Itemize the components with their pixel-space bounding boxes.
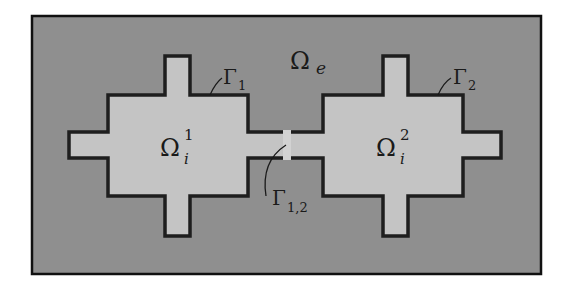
svg-text:i: i <box>400 150 405 168</box>
svg-text:1: 1 <box>184 126 194 144</box>
svg-text:Γ: Γ <box>272 186 286 210</box>
svg-text:1,2: 1,2 <box>287 200 308 215</box>
svg-text:Γ: Γ <box>223 65 237 89</box>
interface-gamma-12 <box>283 130 291 160</box>
domain-diagram: Ω e Ω 1 i Ω 2 i Γ 1 Γ 2 Γ 1,2 <box>0 0 569 289</box>
svg-text:e: e <box>316 58 326 78</box>
svg-text:Ω: Ω <box>160 134 180 162</box>
svg-text:Γ: Γ <box>453 65 467 89</box>
svg-text:i: i <box>184 150 189 168</box>
svg-text:Ω: Ω <box>376 134 396 162</box>
svg-text:Ω: Ω <box>290 47 310 75</box>
svg-text:1: 1 <box>238 78 246 93</box>
svg-text:2: 2 <box>400 126 410 144</box>
svg-text:2: 2 <box>468 78 476 93</box>
